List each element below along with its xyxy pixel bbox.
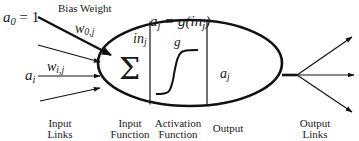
input-weight-label: wi,j	[47, 60, 64, 75]
sigmoid-curve-icon	[156, 50, 198, 94]
sum-symbol-icon: Σ	[119, 54, 140, 84]
activation-equation: aj = g(inj)	[150, 14, 210, 31]
activation-function-label: g	[174, 35, 181, 48]
bias-input-label: a0 = 1	[3, 10, 39, 27]
caption-input-function: InputFunction	[110, 118, 150, 140]
bias-weight-title: Bias Weight	[58, 3, 112, 14]
caption-input-links: InputLinks	[40, 118, 80, 140]
input-label: ai	[25, 68, 35, 85]
input-link-arrow-bottom	[40, 88, 100, 101]
caption-activation-function: ActivationFunction	[150, 118, 206, 140]
net-input-label: inj	[133, 32, 147, 47]
bias-weight-label: w0,j	[75, 22, 94, 37]
caption-output: Output	[206, 123, 250, 134]
output-label: aj	[220, 67, 230, 82]
output-link-arrow-bottom	[297, 75, 352, 112]
caption-output-links: OutputLinks	[293, 118, 337, 140]
output-link-arrow-top	[297, 37, 352, 75]
